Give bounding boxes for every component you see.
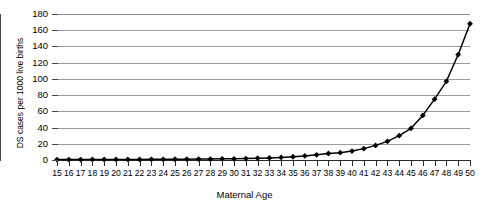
x-tick-mark (81, 161, 82, 166)
x-tick-mark (187, 161, 188, 166)
x-tick-mark (199, 161, 200, 166)
y-tick-mark (52, 63, 58, 64)
gridline (57, 95, 470, 96)
x-tick-mark (328, 161, 329, 166)
y-tick-label: 120 (24, 59, 48, 67)
y-tick-label: 180 (24, 10, 48, 18)
gridline (57, 14, 470, 15)
x-tick-label: 50 (461, 168, 479, 178)
x-tick-mark (411, 161, 412, 166)
x-tick-mark (317, 161, 318, 166)
gridline (57, 30, 470, 31)
x-tick-mark (399, 161, 400, 166)
x-tick-mark (364, 161, 365, 166)
x-tick-mark (69, 161, 70, 166)
y-tick-mark (52, 128, 58, 129)
x-tick-mark (140, 161, 141, 166)
x-tick-mark (352, 161, 353, 166)
x-tick-mark (387, 161, 388, 166)
y-tick-label: 80 (24, 91, 48, 99)
chart-container: DS cases per 1000 live births 1801601401… (0, 0, 489, 212)
x-tick-mark (458, 161, 459, 166)
x-tick-mark (281, 161, 282, 166)
plot-area (57, 14, 470, 160)
x-tick-mark (305, 161, 306, 166)
y-tick-label: 100 (24, 75, 48, 83)
x-tick-mark (258, 161, 259, 166)
x-tick-mark (269, 161, 270, 166)
y-tick-mark (52, 111, 58, 112)
y-tick-mark (52, 30, 58, 31)
gridline (57, 79, 470, 80)
x-tick-mark (175, 161, 176, 166)
gridline (57, 63, 470, 64)
x-tick-mark (92, 161, 93, 166)
x-tick-mark (446, 161, 447, 166)
y-tick-label: 140 (24, 42, 48, 50)
x-tick-mark (163, 161, 164, 166)
x-tick-mark (293, 161, 294, 166)
x-axis-line (57, 160, 471, 161)
y-tick-mark (52, 144, 58, 145)
x-tick-mark (234, 161, 235, 166)
x-tick-mark (104, 161, 105, 166)
x-tick-mark (470, 161, 471, 166)
x-axis-title: Maternal Age (0, 189, 489, 200)
gridline (57, 111, 470, 112)
x-tick-mark (151, 161, 152, 166)
x-tick-mark (376, 161, 377, 166)
y-tick-mark (52, 79, 58, 80)
x-tick-mark (222, 161, 223, 166)
x-tick-mark (246, 161, 247, 166)
gridline (57, 144, 470, 145)
y-tick-label: 40 (24, 124, 48, 132)
y-tick-mark (52, 46, 58, 47)
y-tick-label: 0 (24, 156, 48, 164)
x-tick-mark (340, 161, 341, 166)
x-tick-mark (435, 161, 436, 166)
y-tick-label: 60 (24, 107, 48, 115)
y-tick-mark (52, 14, 58, 15)
x-tick-mark (116, 161, 117, 166)
x-tick-mark (210, 161, 211, 166)
x-tick-mark (128, 161, 129, 166)
y-tick-mark (52, 95, 58, 96)
y-axis-tick-labels: 180160140120100806040200 (22, 0, 48, 212)
y-tick-label: 160 (24, 26, 48, 34)
y-axis-line (0, 14, 1, 161)
gridline (57, 128, 470, 129)
x-tick-mark (423, 161, 424, 166)
y-tick-label: 20 (24, 140, 48, 148)
x-tick-mark (57, 161, 58, 166)
gridline (57, 46, 470, 47)
